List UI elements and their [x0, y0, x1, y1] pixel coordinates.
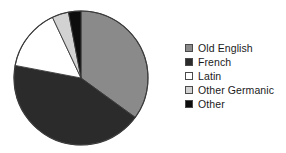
legend-item-other-germanic[interactable]: Other Germanic [185, 83, 285, 97]
pie-chart-figure: Old English French Latin Other Germanic … [0, 0, 286, 153]
legend-swatch-old-english [185, 44, 193, 52]
legend-item-french[interactable]: French [185, 55, 285, 69]
pie-chart-svg [0, 0, 170, 153]
legend-item-old-english[interactable]: Old English [185, 41, 285, 55]
legend-swatch-other [185, 100, 193, 108]
legend-swatch-latin [185, 72, 193, 80]
legend-label-other: Other [198, 98, 225, 110]
legend-label-french: French [198, 56, 231, 68]
chart-legend: Old English French Latin Other Germanic … [185, 41, 285, 111]
legend-swatch-french [185, 58, 193, 66]
legend-label-latin: Latin [198, 70, 221, 82]
legend-item-other[interactable]: Other [185, 97, 285, 111]
pie-chart-plot-area [0, 0, 170, 153]
legend-label-old-english: Old English [198, 42, 253, 54]
legend-label-other-germanic: Other Germanic [198, 84, 274, 96]
legend-swatch-other-germanic [185, 86, 193, 94]
legend-item-latin[interactable]: Latin [185, 69, 285, 83]
